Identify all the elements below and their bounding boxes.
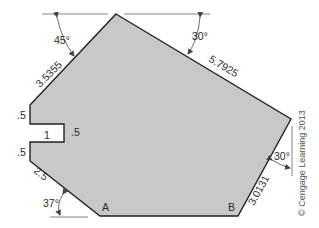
notch-width-label: 1 (44, 129, 50, 141)
geometry-diagram: 45° 30° 30° 37° 3.5355 5.7925 3.0131 2.5… (0, 0, 319, 228)
angle-label-30-top: 30° (192, 30, 208, 42)
copyright-text: © Cengage Learning 2013 (297, 110, 307, 216)
angle-label-45: 45° (54, 34, 70, 46)
left-label-lower: .5 (17, 146, 26, 158)
notch-height-label: .5 (71, 126, 80, 138)
point-a-label: A (102, 201, 109, 213)
left-label-upper: .5 (17, 109, 26, 121)
angle-label-37: 37° (43, 197, 59, 209)
angle-arc-37 (59, 194, 63, 215)
point-b-label: B (228, 201, 235, 213)
angle-label-30-right: 30° (274, 150, 290, 162)
